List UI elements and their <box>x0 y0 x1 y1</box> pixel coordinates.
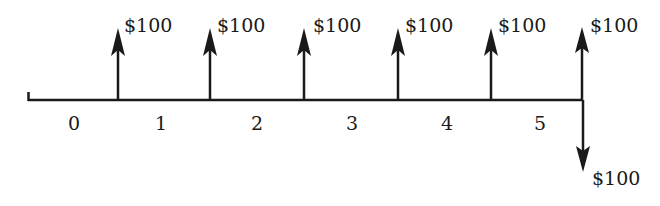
inflow-arrow-icon <box>111 28 125 100</box>
inflow-arrow-icon <box>484 28 498 100</box>
inflow-label: $100 <box>124 14 172 36</box>
period-label: 1 <box>155 112 167 134</box>
inflow-arrow-icon <box>575 27 589 100</box>
inflow-arrow-icon <box>391 28 405 100</box>
timeline-axis <box>28 92 583 101</box>
inflow-arrow-icon <box>297 28 311 100</box>
inflow-label: $100 <box>405 14 453 36</box>
inflow-label: $100 <box>217 14 265 36</box>
cash-flow-diagram: $100 $100 $100 $100 $100 $100 $100 0 1 2… <box>0 0 660 206</box>
inflow-arrows <box>111 27 589 100</box>
period-label: 0 <box>68 112 80 134</box>
period-label: 5 <box>534 112 546 134</box>
outflow-label: $100 <box>592 167 640 189</box>
inflow-label: $100 <box>313 14 361 36</box>
inflow-label: $100 <box>498 14 546 36</box>
outflow-arrow-icon <box>576 100 590 172</box>
period-label: 2 <box>251 112 263 134</box>
period-label: 3 <box>346 112 358 134</box>
inflow-arrow-icon <box>203 28 217 100</box>
inflow-label: $100 <box>590 14 638 36</box>
period-label: 4 <box>441 112 453 134</box>
